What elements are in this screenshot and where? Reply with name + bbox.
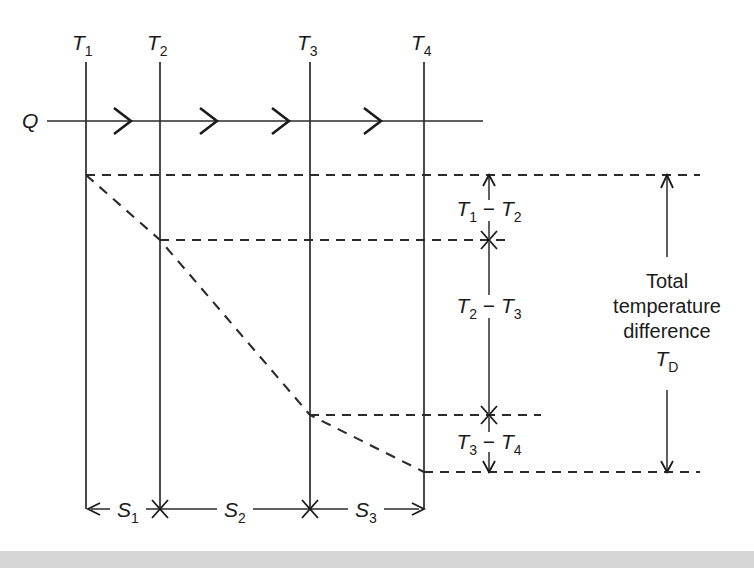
drop-label-d23: T2 − T3: [456, 294, 521, 322]
total-label-line1: Total: [646, 270, 688, 292]
heat-flow-label: Q: [22, 109, 38, 132]
label-t3: T3: [297, 31, 318, 59]
label-t2: T2: [147, 31, 168, 59]
label-t1: T1: [72, 31, 93, 59]
total-label-line3: difference: [623, 320, 710, 342]
conduction-diagram: T1 T2 T3 T4 Q T1 − T2: [0, 0, 754, 568]
label-t4: T4: [411, 31, 432, 59]
footer-band: [0, 551, 754, 568]
temperature-profile-curve: [86, 175, 424, 472]
total-symbol-td: TD: [656, 347, 679, 375]
drop-label-d12: T1 − T2: [456, 197, 521, 225]
figure-canvas: T1 T2 T3 T4 Q T1 − T2: [0, 0, 754, 568]
total-label-line2: temperature: [613, 295, 721, 317]
